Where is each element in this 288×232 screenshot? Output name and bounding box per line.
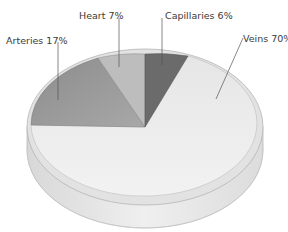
- label-heart: Heart 7%: [79, 10, 124, 21]
- label-veins: Veins 70%: [243, 33, 288, 44]
- pie-chart: Arteries 17% Heart 7% Capillaries 6% Vei…: [0, 0, 288, 232]
- pie-slices: [31, 53, 257, 196]
- label-arteries: Arteries 17%: [6, 35, 67, 46]
- label-capillaries: Capillaries 6%: [165, 10, 233, 21]
